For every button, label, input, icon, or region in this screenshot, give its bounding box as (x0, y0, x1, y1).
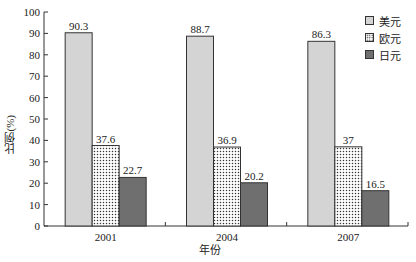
bar (362, 191, 389, 226)
y-tick-label: 40 (29, 134, 41, 146)
legend-item-usd: 美元 (365, 12, 401, 29)
bar-value-label: 37 (343, 134, 355, 146)
y-axis-label: 比例(%) (2, 115, 18, 154)
bar-value-label: 20.2 (244, 170, 263, 182)
legend: 美元 欧元 日元 (365, 12, 401, 63)
bar-value-label: 86.3 (312, 28, 332, 40)
bar-value-label: 90.3 (69, 20, 89, 32)
bar-value-label: 36.9 (217, 134, 237, 146)
legend-swatch-eur (365, 33, 374, 42)
y-tick-label: 30 (29, 156, 41, 168)
bars: 90.337.622.788.736.920.286.33716.5 (65, 20, 389, 226)
legend-label: 日元 (379, 47, 401, 63)
y-tick-label: 0 (35, 220, 41, 232)
bar (65, 33, 92, 226)
bar-value-label: 16.5 (366, 178, 386, 190)
x-tick-label: 2001 (95, 231, 117, 243)
bar (335, 147, 362, 226)
legend-label: 欧元 (379, 30, 401, 46)
y-axis: 0102030405060708090100 (24, 6, 49, 232)
bar (119, 177, 146, 226)
legend-swatch-usd (365, 16, 374, 25)
bar (214, 147, 241, 226)
legend-item-eur: 欧元 (365, 29, 401, 46)
y-tick-label: 10 (29, 199, 41, 211)
y-tick-label: 100 (24, 6, 41, 18)
y-tick-label: 20 (29, 177, 41, 189)
y-tick-label: 50 (29, 113, 41, 125)
bar-value-label: 22.7 (123, 164, 143, 176)
legend-label: 美元 (379, 13, 401, 29)
y-tick-label: 90 (29, 27, 41, 39)
bar-value-label: 88.7 (190, 23, 210, 35)
bar-chart: 0102030405060708090100 200120042007 90.3… (0, 0, 416, 262)
y-tick-label: 80 (29, 49, 41, 61)
bar (308, 41, 335, 226)
x-axis-label: 年份 (199, 241, 221, 257)
x-tick-label: 2007 (337, 231, 360, 243)
y-tick-label: 70 (29, 70, 41, 82)
bar (187, 36, 214, 226)
bar (241, 183, 268, 226)
legend-swatch-jpy (365, 50, 374, 59)
y-tick-label: 60 (29, 92, 41, 104)
bar (92, 146, 119, 226)
bar-value-label: 37.6 (96, 133, 116, 145)
legend-item-jpy: 日元 (365, 46, 401, 63)
